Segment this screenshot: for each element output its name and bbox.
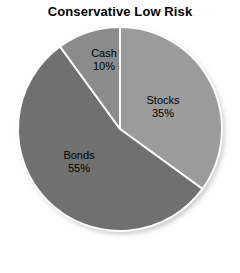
- slice-label-name-cash: Cash: [91, 47, 117, 59]
- pie-slices: [18, 27, 222, 231]
- slice-label-value-cash: 10%: [93, 60, 115, 72]
- slice-label-name-bonds: Bonds: [63, 149, 95, 161]
- slice-label-value-bonds: 55%: [68, 162, 90, 174]
- pie-plot-area: Stocks35%Bonds55%Cash10%: [0, 0, 240, 273]
- slice-label-value-stocks: 35%: [152, 107, 174, 119]
- pie-chart-figure: Conservative Low Risk Stocks35%Bonds55%C…: [0, 0, 240, 273]
- slice-label-name-stocks: Stocks: [146, 94, 180, 106]
- pie-svg: Stocks35%Bonds55%Cash10%: [0, 0, 240, 273]
